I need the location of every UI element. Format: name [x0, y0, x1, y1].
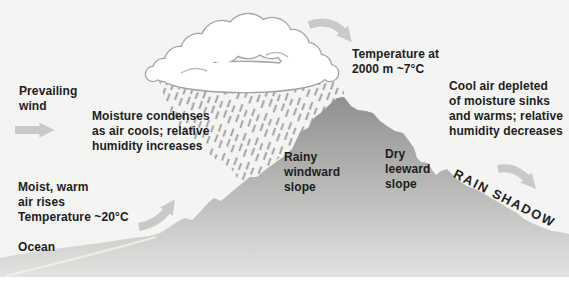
label-moist-warm-air: Moist, warm air rises Temperature ~20°C [18, 180, 129, 225]
label-cool-air-depleted: Cool air depleted of moisture sinks and … [449, 79, 563, 139]
label-prevailing-wind: Prevailing wind [19, 84, 77, 114]
label-leeward-slope: Dry leeward slope [385, 147, 430, 192]
label-ocean: Ocean [18, 240, 55, 255]
label-windward-slope: Rainy windward slope [284, 150, 340, 195]
diagram-canvas: Prevailing wind Moisture condenses as ai… [0, 0, 569, 289]
label-temperature-2000m: Temperature at 2000 m ~7°C [352, 47, 439, 77]
rain-shadow-diagram [0, 0, 569, 289]
label-moisture-condenses: Moisture condenses as air cools; relativ… [92, 109, 210, 154]
